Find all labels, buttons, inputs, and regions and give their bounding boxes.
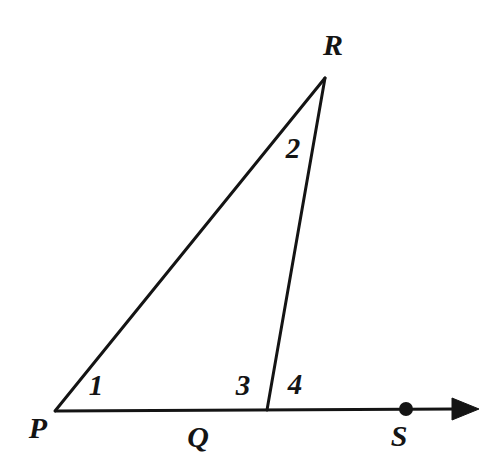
vertex-label-q: Q	[187, 422, 209, 452]
arrow-head-icon	[452, 398, 479, 420]
geometry-figure	[0, 0, 503, 470]
angle-label-4: 4	[288, 370, 303, 399]
angle-label-3: 3	[236, 371, 251, 400]
point-marker-s	[399, 402, 413, 416]
segment-p-r	[55, 78, 325, 411]
vertex-label-p: P	[29, 413, 47, 443]
angle-label-1: 1	[89, 371, 104, 400]
vertex-label-r: R	[323, 30, 343, 60]
segment-r-q	[267, 78, 325, 410]
vertex-label-s: S	[391, 421, 408, 451]
geometry-diagram-canvas: P Q R S 1 2 3 4	[0, 0, 503, 470]
angle-label-2: 2	[286, 134, 301, 163]
ray-pq-s-baseline	[55, 409, 455, 411]
